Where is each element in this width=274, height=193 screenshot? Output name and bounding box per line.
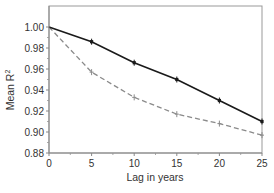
series-line-solid — [49, 27, 262, 122]
y-tick-label: 1.00 — [25, 22, 45, 33]
data-point-marker — [218, 99, 221, 102]
x-tick-label: 10 — [129, 158, 141, 169]
y-tick-label: 0.98 — [25, 43, 45, 54]
y-tick-label: 0.92 — [25, 106, 45, 117]
x-axis-ticks: 0510152025 — [46, 153, 268, 169]
y-axis-ticks: 0.880.900.920.940.960.981.00 — [25, 22, 49, 159]
data-point-marker — [175, 78, 178, 81]
plot-frame — [49, 6, 262, 153]
data-point-marker — [260, 120, 263, 123]
y-tick-label: 0.88 — [25, 148, 45, 159]
data-point-marker — [90, 40, 93, 43]
x-axis-title: Lag in years — [126, 171, 183, 183]
data-point-marker — [133, 61, 136, 64]
y-axis-title-superscript: 2 — [4, 70, 11, 74]
series-line-dashed — [49, 27, 262, 135]
x-tick-label: 5 — [89, 158, 95, 169]
series-layer — [49, 27, 264, 138]
y-tick-label: 0.90 — [25, 127, 45, 138]
y-tick-label: 0.94 — [25, 85, 45, 96]
y-axis-title-main: Mean R — [4, 73, 16, 110]
line-chart: 0.880.900.920.940.960.981.00 0510152025 … — [0, 0, 274, 193]
y-axis-title: Mean R2 — [4, 70, 16, 111]
x-tick-label: 25 — [256, 158, 268, 169]
y-tick-label: 0.96 — [25, 64, 45, 75]
x-tick-label: 0 — [46, 158, 52, 169]
x-tick-label: 20 — [214, 158, 226, 169]
x-tick-label: 15 — [171, 158, 183, 169]
